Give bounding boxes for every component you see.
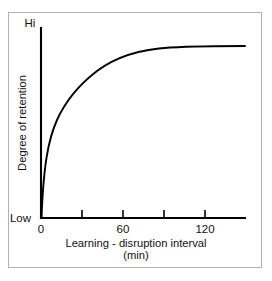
y-axis-high-label: Hi <box>25 17 36 29</box>
retention-curve-path <box>42 46 246 218</box>
y-axis-title: Degree of retention <box>16 75 28 171</box>
y-axis-low-label: Low <box>10 212 32 224</box>
x-tick-label-0: 0 <box>38 223 44 235</box>
x-axis-units-label: (min) <box>123 249 149 261</box>
x-tick-label-60: 60 <box>117 223 130 235</box>
figure-root: 0 60 120 Hi Low Learning - disruption in… <box>0 0 272 281</box>
x-axis-title: Learning - disruption interval <box>65 237 206 249</box>
retention-curve-chart: 0 60 120 Hi Low Learning - disruption in… <box>0 0 272 281</box>
x-tick-label-120: 120 <box>195 223 214 235</box>
